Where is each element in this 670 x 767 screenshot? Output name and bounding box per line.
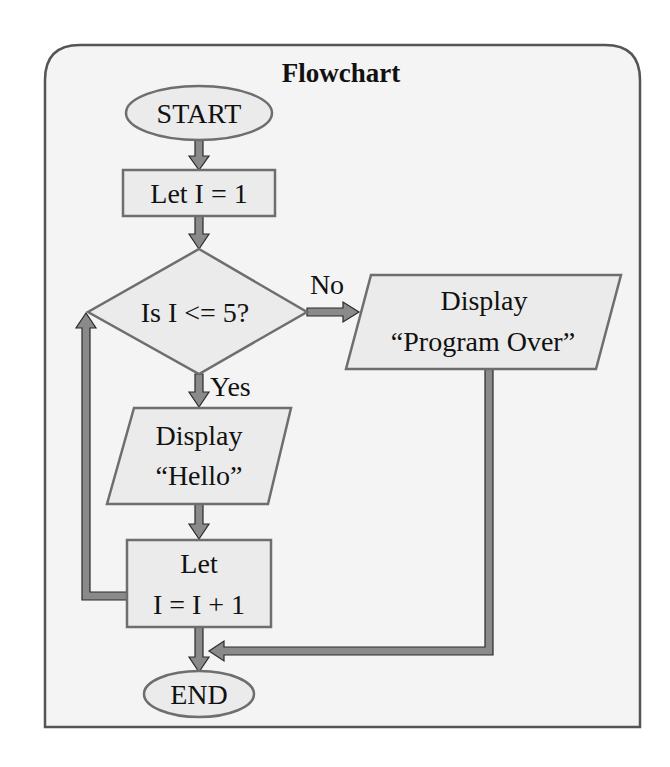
flowchart-diagram: Flowchart START Let I = 1 Is I <= 5? No … <box>0 0 670 767</box>
display-hello-line-1: Display <box>155 420 242 451</box>
edge-label-yes: Yes <box>210 371 251 402</box>
display-over-line-1: Display <box>440 285 527 316</box>
increment-line-1: Let <box>180 548 218 579</box>
display-over-line-2: “Program Over” <box>391 326 575 357</box>
diagram-title: Flowchart <box>282 58 400 88</box>
increment-line-2: I = I + 1 <box>153 589 245 620</box>
display-hello-line-2: “Hello” <box>155 460 242 491</box>
decision-label: Is I <= 5? <box>141 297 250 328</box>
edge-label-no: No <box>310 269 344 300</box>
start-label: START <box>157 98 242 129</box>
init-label: Let I = 1 <box>150 178 247 209</box>
end-label: END <box>170 679 228 710</box>
